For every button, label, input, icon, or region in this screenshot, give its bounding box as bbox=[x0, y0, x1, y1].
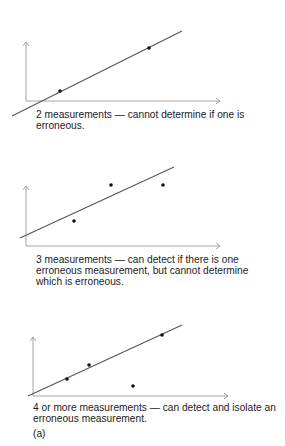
caption-line: 4 or more measurements — can detect and … bbox=[33, 402, 276, 413]
data-point bbox=[109, 183, 113, 187]
caption-four-or-more-measurements: 4 or more measurements — can detect and … bbox=[33, 402, 276, 424]
axes bbox=[23, 186, 220, 249]
plots-canvas bbox=[0, 0, 285, 446]
panel-three-measurements bbox=[20, 167, 220, 249]
fit-line bbox=[20, 167, 174, 238]
caption-line: erroneous. bbox=[36, 120, 244, 131]
fit-line bbox=[12, 31, 182, 116]
data-point bbox=[72, 219, 76, 223]
caption-line: erroneous measurement, but cannot determ… bbox=[36, 265, 248, 276]
caption-two-measurements: 2 measurements — cannot determine if one… bbox=[36, 109, 244, 131]
data-point bbox=[87, 363, 91, 367]
data-point bbox=[160, 333, 164, 337]
caption-three-measurements: 3 measurements — can detect if there is … bbox=[36, 254, 248, 287]
caption-line: 3 measurements — can detect if there is … bbox=[36, 254, 248, 265]
data-point bbox=[58, 89, 62, 93]
fit-line bbox=[28, 325, 182, 396]
caption-line: which is erroneous. bbox=[36, 276, 248, 287]
data-point bbox=[65, 377, 69, 381]
panel-four-or-more-measurements bbox=[28, 325, 228, 399]
axes bbox=[23, 42, 220, 104]
panel-two-measurements bbox=[12, 31, 220, 116]
figure-label: (a) bbox=[33, 428, 45, 439]
caption-line: 2 measurements — cannot determine if one… bbox=[36, 109, 244, 120]
axes bbox=[30, 337, 228, 399]
data-point bbox=[147, 46, 151, 50]
outlier-point bbox=[131, 384, 135, 388]
measurement-error-figure: 2 measurements — cannot determine if one… bbox=[0, 0, 285, 446]
caption-line: erroneous measurement. bbox=[33, 413, 276, 424]
data-point bbox=[161, 183, 165, 187]
